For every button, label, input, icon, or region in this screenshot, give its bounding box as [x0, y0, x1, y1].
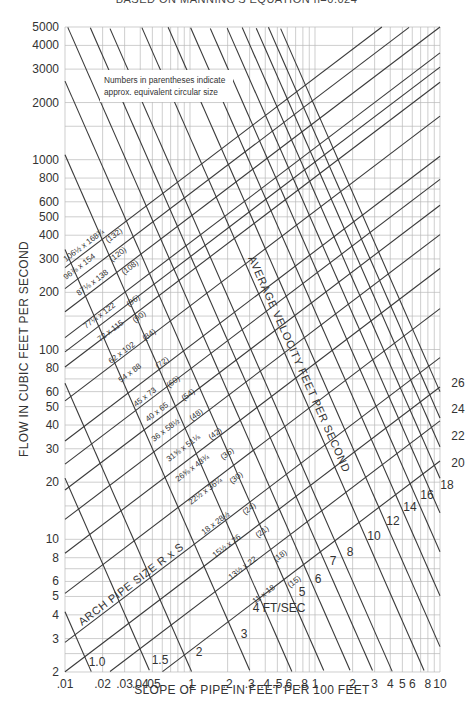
velocity-label: 20: [451, 456, 465, 470]
axis-ticks: .01.02.03.04.05.1.2.3.4.5.6.812345681023…: [32, 20, 447, 691]
equiv-circular-label: (132): [104, 226, 125, 245]
pipe-size-label: 13½ x 22: [227, 554, 259, 581]
average-velocity-title: AVERAGE VELOCITY FEET PER SECOND: [246, 254, 353, 474]
y-tick-label: 4000: [32, 38, 59, 52]
y-tick-label: 2: [52, 665, 59, 679]
pipe-size-label: 87⅛ x 138: [75, 268, 111, 298]
velocity-label: 26: [451, 376, 465, 390]
velocity-label: 1.5: [152, 653, 169, 667]
velocity-label: 2: [196, 645, 203, 659]
equiv-circular-label: (54): [180, 387, 197, 403]
pipe-size-label: 15½ x 26: [211, 532, 243, 559]
pipe-size-label: 54 x 88: [117, 361, 144, 384]
velocity-label: 5: [299, 585, 306, 599]
y-tick-label: 20: [46, 475, 60, 489]
equiv-circular-label: (18): [272, 548, 289, 564]
x-tick-label: 5: [399, 677, 406, 691]
equiv-circular-label: (108): [120, 258, 141, 277]
y-tick-label: 100: [39, 343, 59, 357]
y-tick-label: 400: [39, 228, 59, 242]
y-tick-label: 5000: [32, 20, 59, 34]
y-tick-label: 800: [39, 171, 59, 185]
x-tick-label: 3: [371, 677, 378, 691]
y-tick-label: 6: [52, 574, 59, 588]
y-tick-label: 3: [52, 632, 59, 646]
y-tick-label: 1000: [32, 153, 59, 167]
equiv-circular-label: (36): [219, 446, 236, 462]
x-tick-label: 4: [387, 677, 394, 691]
velocity-label: 3: [241, 627, 248, 641]
pipe-size-label: 22½ x 36¼: [187, 475, 224, 506]
equiv-circular-label: (60): [165, 374, 182, 390]
arch-pipe-size-title: ARCH PIPE SIZE R x S: [76, 540, 186, 627]
y-axis-label: FLOW IN CUBIC FEET PER SECOND: [17, 241, 31, 457]
velocity-label: 10: [367, 529, 381, 543]
note-line-2: approx. equivalent circular size: [104, 86, 229, 98]
y-tick-label: 600: [39, 195, 59, 209]
x-tick-label: .02: [94, 677, 111, 691]
y-tick-label: 200: [39, 285, 59, 299]
y-tick-label: 50: [46, 400, 60, 414]
velocity-line: [68, 27, 350, 670]
velocity-label: 22: [451, 429, 465, 443]
velocity-label: 24: [451, 402, 465, 416]
x-tick-label: 10: [433, 677, 447, 691]
velocity-line: [168, 27, 440, 646]
x-tick-label: 8: [425, 677, 432, 691]
equiv-circular-label: (42): [207, 426, 224, 442]
pipe-size-label: 36 x 58½: [150, 416, 182, 443]
velocity-label: 4 FT/SEC: [253, 601, 306, 615]
pipe-size-line: [65, 387, 440, 672]
equiv-circular-label: (120): [108, 245, 129, 264]
pipe-size-label: 45 x 73: [132, 385, 159, 408]
velocity-line: [242, 28, 440, 479]
equiv-circular-label: (84): [141, 327, 158, 343]
equiv-circular-label: (30): [228, 470, 245, 486]
velocity-label: 18: [440, 478, 454, 492]
y-tick-label: 30: [46, 442, 60, 456]
y-tick-label: 10: [46, 532, 60, 546]
velocity-label: 6: [315, 572, 322, 586]
y-tick-label: 4: [52, 608, 59, 622]
velocity-label: 12: [386, 514, 400, 528]
y-tick-label: 60: [46, 385, 60, 399]
parentheses-note: Numbers in parentheses indicate approx. …: [100, 70, 233, 102]
velocity-label: 1.0: [89, 655, 106, 669]
y-tick-label: 5: [52, 589, 59, 603]
y-tick-label: 40: [46, 418, 60, 432]
y-tick-label: 80: [46, 361, 60, 375]
x-tick-label: .03: [116, 677, 133, 691]
nomograph-chart: 1.01.5234 FT/SEC567810121416182022242610…: [0, 0, 473, 701]
y-tick-label: 3000: [32, 62, 59, 76]
y-tick-label: 300: [39, 252, 59, 266]
velocity-label: 7: [330, 554, 337, 568]
x-tick-label: 6: [409, 677, 416, 691]
velocity-line: [210, 29, 440, 552]
y-tick-label: 500: [39, 210, 59, 224]
y-tick-label: 8: [52, 551, 59, 565]
pipe-size-label: 62 x 102: [107, 340, 137, 366]
velocity-label: 8: [347, 545, 354, 559]
x-axis-label: SLOPE OF PIPE IN FEET PER 100 FEET: [134, 683, 370, 697]
velocity-label: 16: [420, 488, 434, 502]
y-tick-label: 2000: [32, 96, 59, 110]
velocity-label: 14: [403, 500, 417, 514]
note-line-1: Numbers in parentheses indicate: [104, 74, 229, 86]
x-tick-label: .01: [57, 677, 74, 691]
